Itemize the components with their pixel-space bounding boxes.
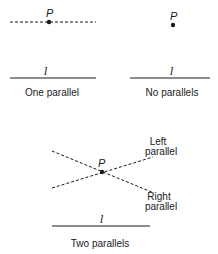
point-p	[171, 23, 175, 27]
caption-two-parallels: Two parallels	[71, 238, 129, 249]
caption-no-parallels: No parallels	[146, 87, 199, 98]
point-p-label: P	[46, 7, 54, 19]
point-p	[100, 170, 104, 174]
point-p-label: P	[170, 10, 178, 22]
line-l-label: l	[170, 65, 174, 78]
point-p-label: P	[98, 157, 106, 169]
panel-one-parallel: P l One parallel	[10, 7, 96, 98]
panel-two-parallels: P Left parallel Right parallel l Two par…	[52, 136, 177, 249]
left-parallel-label-line2: parallel	[145, 146, 177, 157]
caption-one-parallel: One parallel	[25, 87, 79, 98]
right-parallel-label-line2: parallel	[145, 201, 177, 212]
line-l-label: l	[44, 65, 48, 78]
line-l-label: l	[100, 213, 104, 226]
point-p	[47, 20, 51, 24]
parallel-postulate-diagram: P l One parallel P l No parallels P Left…	[0, 0, 218, 254]
panel-no-parallels: P l No parallels	[130, 10, 210, 98]
